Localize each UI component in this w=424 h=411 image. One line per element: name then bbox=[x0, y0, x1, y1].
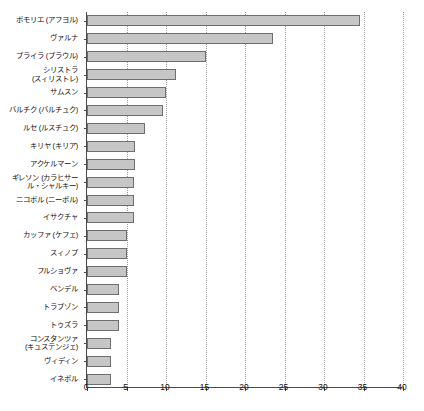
category-label: アクケルマーン bbox=[30, 160, 78, 169]
category-label: ヴィディン bbox=[44, 357, 78, 366]
x-axis-tick-label-30: 30 bbox=[318, 382, 327, 392]
bar-series bbox=[87, 12, 402, 387]
x-axis-tick-label-35: 35 bbox=[358, 382, 367, 392]
y-axis-tick bbox=[84, 57, 87, 58]
category-label: フルショヴァ bbox=[37, 267, 78, 276]
bar bbox=[87, 123, 145, 134]
y-axis-tick bbox=[84, 93, 87, 94]
bar bbox=[87, 320, 119, 331]
y-axis-tick bbox=[84, 218, 87, 219]
category-label: イネボル bbox=[50, 375, 78, 384]
x-axis-tick-label-5: 5 bbox=[123, 382, 128, 392]
x-axis-tick-label-25: 25 bbox=[279, 382, 288, 392]
y-axis-tick bbox=[84, 290, 87, 291]
y-axis-tick bbox=[84, 146, 87, 147]
y-axis-tick bbox=[84, 182, 87, 183]
bar bbox=[87, 248, 127, 259]
bar bbox=[87, 159, 135, 170]
bar bbox=[87, 302, 119, 313]
category-label: カッファ (ケフェ) bbox=[23, 231, 78, 240]
y-axis-tick bbox=[84, 200, 87, 201]
bar bbox=[87, 51, 206, 62]
y-axis-tick bbox=[84, 343, 87, 344]
x-axis-tick-label-40: 40 bbox=[397, 382, 406, 392]
category-label: サムスン bbox=[50, 88, 78, 97]
y-axis-tick bbox=[84, 110, 87, 111]
bar bbox=[87, 177, 134, 188]
y-axis-tick bbox=[84, 307, 87, 308]
category-label: ニコポル (ニーボル) bbox=[16, 196, 78, 205]
bar bbox=[87, 87, 166, 98]
category-label: ヴァルナ bbox=[50, 34, 78, 43]
category-label: トラブゾン bbox=[43, 303, 78, 312]
x-axis-tick-label-10: 10 bbox=[160, 382, 169, 392]
bar bbox=[87, 266, 127, 277]
y-axis-tick bbox=[84, 379, 87, 380]
category-label: トゥズラ bbox=[50, 321, 78, 330]
bar bbox=[87, 69, 176, 80]
category-label: キリヤ (キリア) bbox=[30, 142, 78, 151]
y-axis-tick bbox=[84, 236, 87, 237]
y-axis-tick bbox=[84, 39, 87, 40]
bar bbox=[87, 356, 111, 367]
gridline-40 bbox=[403, 12, 404, 387]
category-label: バルチク (バルチュク) bbox=[9, 106, 78, 115]
plot-area bbox=[86, 12, 402, 388]
category-label: イサクチャ bbox=[43, 213, 78, 222]
y-axis-tick bbox=[84, 325, 87, 326]
bar bbox=[87, 33, 273, 44]
y-axis-tick bbox=[84, 272, 87, 273]
category-label: コンスタンツァ (キュステンジェ) bbox=[25, 335, 78, 352]
bar bbox=[87, 284, 119, 295]
y-axis-tick bbox=[84, 128, 87, 129]
category-axis-labels: ポモリエ (アフヨル)ヴァルナブライラ (ブラウル)シリストラ (スィリストレ)… bbox=[0, 12, 82, 388]
y-axis-tick bbox=[84, 21, 87, 22]
x-axis-tick-label-0: 0 bbox=[84, 382, 89, 392]
bar bbox=[87, 15, 360, 26]
category-label: ルセ (ルスチュク) bbox=[23, 124, 78, 133]
category-label: ポモリエ (アフヨル) bbox=[16, 16, 78, 25]
bar bbox=[87, 374, 111, 385]
bar bbox=[87, 105, 163, 116]
bar bbox=[87, 230, 127, 241]
category-label: ギレソン (カラヒサー ル・シャルキー) bbox=[12, 174, 78, 191]
bar bbox=[87, 212, 134, 223]
y-axis-tick bbox=[84, 254, 87, 255]
y-axis-tick bbox=[84, 361, 87, 362]
y-axis-tick bbox=[84, 164, 87, 165]
y-axis-tick bbox=[84, 75, 87, 76]
category-label: ブライラ (ブラウル) bbox=[16, 52, 78, 61]
x-axis-tick-label-15: 15 bbox=[200, 382, 209, 392]
bar bbox=[87, 195, 134, 206]
category-label: スィノプ bbox=[50, 249, 78, 258]
bar bbox=[87, 141, 135, 152]
category-label: シリストラ (スィリストレ) bbox=[32, 66, 78, 83]
bar-chart: ポモリエ (アフヨル)ヴァルナブライラ (ブラウル)シリストラ (スィリストレ)… bbox=[0, 0, 424, 411]
x-axis-tick-label-20: 20 bbox=[239, 382, 248, 392]
bar bbox=[87, 338, 111, 349]
category-label: ベンデル bbox=[50, 285, 78, 294]
